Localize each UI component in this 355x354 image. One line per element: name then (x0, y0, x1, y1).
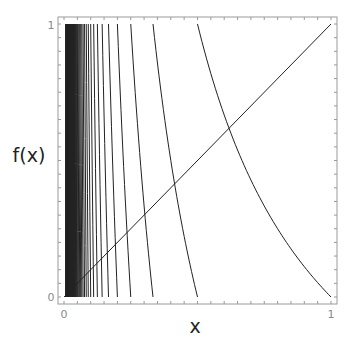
y-tick-label-1: 1 (48, 19, 55, 32)
x-tick-label-0: 0 (61, 308, 68, 321)
x-axis-label: x (189, 315, 200, 337)
x-tick-label-1: 1 (328, 308, 335, 321)
y-tick-label-0: 0 (48, 291, 55, 304)
gauss-map-chart: 1 0 0 1 f(x) x (0, 0, 355, 354)
y-axis-label: f(x) (13, 144, 46, 166)
